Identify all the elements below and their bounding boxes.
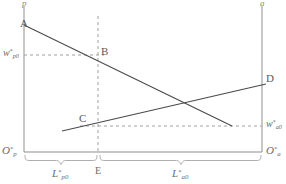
point-label-a: A <box>20 18 28 29</box>
right-wage-subscript: a0 <box>276 123 282 130</box>
left-wage-symbol: w <box>3 47 10 58</box>
point-label-b: B <box>101 46 108 57</box>
left-wage-subscript: p0 <box>13 52 19 59</box>
point-label-c: C <box>79 113 86 124</box>
right-wage-symbol: w <box>266 118 273 129</box>
right-origin-symbol: O <box>266 144 274 156</box>
right-brace <box>100 155 261 165</box>
left-origin-subscript: p <box>13 150 16 157</box>
point-label-d: D <box>266 73 274 84</box>
left-origin-label: O*p <box>2 145 17 158</box>
economics-diagram: p a A B C D E w*p0 w*a0 O*p O*a L*p0 L*a… <box>0 0 286 184</box>
left-brace <box>25 155 97 165</box>
left-brace-label: L*p0 <box>52 168 68 181</box>
left-wage-label: w*p0 <box>3 48 19 59</box>
point-label-e: E <box>95 166 101 176</box>
right-origin-subscript: a <box>277 150 280 157</box>
left-axis-label: p <box>22 0 27 8</box>
left-brace-subscript: p0 <box>62 173 69 180</box>
diagram-canvas <box>0 0 286 184</box>
right-origin-label: O*a <box>266 145 281 158</box>
downward-sloping-line <box>24 25 232 126</box>
right-brace-subscript: a0 <box>182 173 189 180</box>
upward-sloping-line <box>62 84 266 131</box>
right-axis-label: a <box>260 0 265 8</box>
right-wage-label: w*a0 <box>266 119 282 130</box>
right-brace-label: L*a0 <box>172 168 188 181</box>
left-origin-symbol: O <box>2 144 10 156</box>
